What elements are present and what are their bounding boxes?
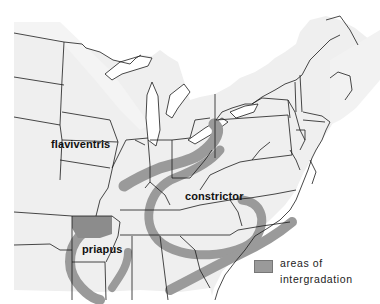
legend-swatch xyxy=(254,260,273,273)
intergradation-core xyxy=(72,216,112,238)
label-constrictor: constrictor xyxy=(185,190,244,202)
legend-text-line2: intergradation xyxy=(280,273,353,285)
range-map: flaviventris constrictor priapus areas o… xyxy=(0,0,380,304)
map-canvas xyxy=(0,0,380,304)
label-flaviventris: flaviventris xyxy=(51,138,110,150)
label-priapus: priapus xyxy=(82,243,122,255)
legend-text-line1: areas of xyxy=(280,257,323,269)
